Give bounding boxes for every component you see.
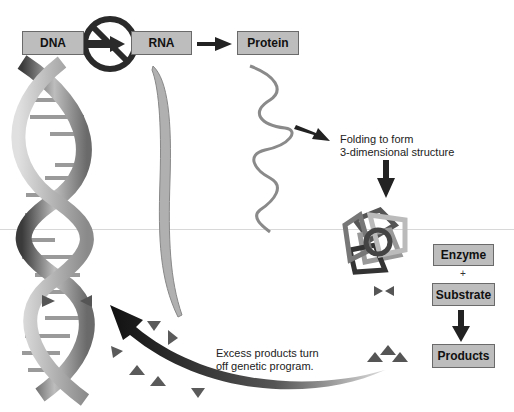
feedback-text-line1: Excess products turn [216,347,319,360]
folding-text-line2: 3-dimensional structure [340,146,454,159]
arrow-folding-icon [294,125,330,141]
substrate-bowtie-icon [374,286,383,296]
rna-label: RNA [149,36,175,50]
plus-sign: + [460,268,466,279]
substrate-box: Substrate [432,283,495,306]
folding-text: Folding to form 3-dimensional structure [340,133,454,159]
rna-ribbon-icon [152,66,182,317]
feedback-text: Excess products turn off genetic program… [216,347,319,373]
dna-box: DNA [22,31,84,55]
products-label: Products [437,349,489,363]
enzyme-box: Enzyme [433,244,494,266]
dna-label: DNA [40,36,66,50]
substrate-bowtie-right-icon [385,286,394,296]
protein-box: Protein [237,31,299,55]
product-triangles-icon [367,345,408,362]
substrate-label: Substrate [436,288,491,302]
feedback-text-line2: off genetic program. [216,360,319,373]
protein-label: Protein [247,36,288,50]
products-box: Products [432,344,495,368]
arrow-substrate-to-products-icon [452,310,470,342]
dna-helix-icon [18,62,87,400]
folded-protein-icon [345,210,405,272]
polypeptide-chain-icon [250,66,292,232]
folding-text-line1: Folding to form [340,133,454,146]
arrow-rna-to-protein-icon [197,37,232,51]
enzyme-label: Enzyme [441,248,486,262]
arrow-down-to-folded-protein-icon [377,160,395,198]
rna-box: RNA [131,31,192,55]
